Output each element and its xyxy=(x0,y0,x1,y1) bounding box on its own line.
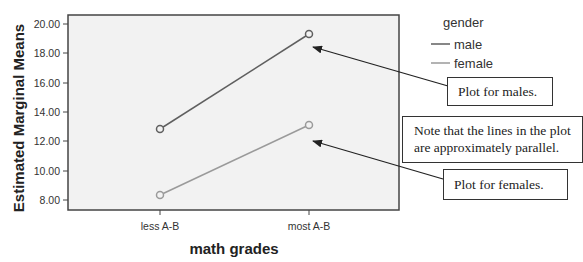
legend-label-male: male xyxy=(454,37,482,52)
data-point xyxy=(306,31,313,38)
plot-area xyxy=(68,15,399,210)
legend: gender male female xyxy=(431,15,493,71)
legend-title: gender xyxy=(443,15,484,30)
legend-label-female: female xyxy=(454,56,493,71)
y-tick-label: 8.00 xyxy=(40,194,61,206)
y-tick-label: 20.00 xyxy=(34,18,60,30)
callout-note-line1: Note that the lines in the plot xyxy=(414,122,582,139)
callout-females-text: Plot for females. xyxy=(454,177,544,192)
y-tick-label: 18.00 xyxy=(34,47,60,59)
data-point xyxy=(157,192,164,199)
callout-females: Plot for females. xyxy=(443,169,568,200)
callout-parallel-note: Note that the lines in the plot are appr… xyxy=(402,116,583,163)
y-tick-label: 16.00 xyxy=(34,77,60,89)
data-point xyxy=(157,126,164,133)
data-point xyxy=(306,122,313,129)
x-axis-label: math grades xyxy=(189,240,278,257)
y-tick-label: 14.00 xyxy=(34,106,60,118)
x-tick-label: most A-B xyxy=(288,220,331,232)
y-tick-label: 12.00 xyxy=(34,135,60,147)
callout-males: Plot for males. xyxy=(447,77,553,106)
y-axis-label: Estimated Marginal Means xyxy=(10,24,27,212)
x-tick-label: less A-B xyxy=(141,220,180,232)
y-tick-label: 10.00 xyxy=(34,165,60,177)
callout-note-line2: are approximately parallel. xyxy=(414,139,582,156)
callout-males-text: Plot for males. xyxy=(458,84,537,99)
